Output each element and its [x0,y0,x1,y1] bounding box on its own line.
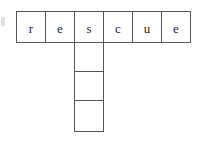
cell-letter: u [144,21,151,34]
across-cell-0[interactable]: r [16,11,46,43]
cell-letter: c [115,21,121,34]
cell-letter: r [29,21,33,34]
down-cell-0[interactable] [74,42,104,72]
down-cell-2[interactable] [74,100,104,132]
across-cell-2[interactable]: s [74,11,104,43]
cell-letter: e [173,21,179,34]
cell-letter: e [57,21,63,34]
cell-letter: s [86,21,91,34]
scan-artifact-mark [1,17,5,26]
across-cell-4[interactable]: u [132,11,162,43]
down-cell-1[interactable] [74,71,104,101]
crossword-grid: r e s c u e [0,0,202,142]
across-cell-3[interactable]: c [103,11,133,43]
across-cell-5[interactable]: e [161,11,191,43]
across-cell-1[interactable]: e [45,11,75,43]
